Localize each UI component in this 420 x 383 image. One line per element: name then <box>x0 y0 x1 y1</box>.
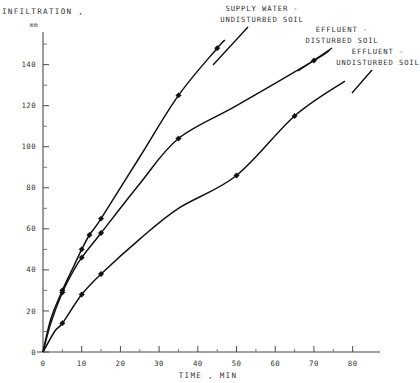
series-annotation-line1-2: EFFLUENT - <box>352 47 404 56</box>
series-annotation-line1-1: EFFLUENT - <box>316 25 368 34</box>
y-axis-unit-label: mm <box>30 21 38 28</box>
y-axis-tick-label: 120 <box>21 101 36 110</box>
y-axis-title: INFILTRATION , <box>2 7 84 16</box>
y-axis-tick-label: 140 <box>21 60 36 69</box>
x-axis-tick-label: 0 <box>41 359 46 368</box>
y-axis-tick-label: 0 <box>31 348 36 357</box>
x-axis-tick-label: 30 <box>154 359 164 368</box>
x-axis-tick-label: 20 <box>116 359 126 368</box>
series-annotation-line2-2: UNDISTURBED SOIL <box>336 58 420 67</box>
series-curves-group <box>43 40 345 352</box>
series-curve-2 <box>43 81 345 352</box>
annotation-leader-line-1 <box>298 48 332 71</box>
series-curve-0 <box>43 40 225 352</box>
annotation-leader-line-2 <box>352 70 372 93</box>
series-annotation-line1-0: SUPPLY WATER - <box>225 4 298 13</box>
x-axis-tick-label: 60 <box>270 359 280 368</box>
data-point-markers-group <box>60 46 317 326</box>
y-axis-tick-label: 20 <box>26 307 36 316</box>
y-axis-tick-label: 60 <box>26 224 36 233</box>
series-curve-1 <box>43 50 329 352</box>
x-axis-tick-label: 40 <box>193 359 203 368</box>
y-axis-tick-label: 100 <box>21 142 36 151</box>
x-axis-title: TIME , MIN <box>179 371 238 380</box>
x-axis-tick-label: 80 <box>348 359 358 368</box>
infiltration-chart: 02040608010012014001020304050607080 SUPP… <box>0 0 420 383</box>
y-axis-tick-label: 80 <box>26 183 36 192</box>
chart-canvas: 02040608010012014001020304050607080 SUPP… <box>0 0 420 383</box>
x-axis-tick-label: 70 <box>309 359 319 368</box>
x-axis-tick-label: 10 <box>77 359 87 368</box>
y-axis-tick-label: 40 <box>26 265 36 274</box>
series-annotation-line2-0: UNDISTURBED SOIL <box>220 15 304 24</box>
x-axis-tick-label: 50 <box>232 359 242 368</box>
axis-titles-group: INFILTRATION ,mmTIME , MIN <box>2 7 237 380</box>
series-annotation-line2-1: DISTURBED SOIL <box>305 36 378 45</box>
data-point-marker <box>79 247 84 252</box>
